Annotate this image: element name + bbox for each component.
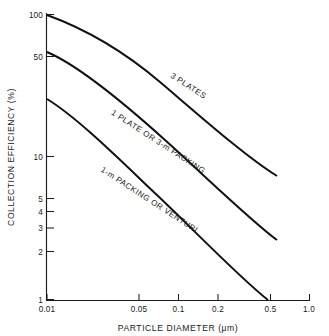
collection-efficiency-chart: 100 50 10 5 4 3 2 1 0.01 0.05 0.1 0.2 0.…	[0, 0, 329, 336]
x-tick-label-0.01: 0.01	[39, 305, 56, 314]
y-tick-label-3: 3	[38, 224, 43, 233]
y-axis-tick-labels: 100 50 10 5 4 3 2 1	[29, 11, 43, 305]
y-tick-label-4: 4	[38, 208, 43, 217]
series-line-3-plates	[47, 15, 277, 176]
y-tick-label-10: 10	[34, 153, 44, 162]
x-axis-tick-labels: 0.01 0.05 0.1 0.2 0.5 1.0	[39, 305, 315, 314]
y-tick-label-1: 1	[38, 296, 43, 305]
x-tick-label-1.0: 1.0	[303, 305, 315, 314]
series-label-1m-packing-or-venturi: 1-m PACKING OR VENTURI	[99, 165, 199, 235]
y-tick-label-5: 5	[38, 195, 43, 204]
series-label-3-plates: 3 PLATES	[169, 71, 208, 101]
x-axis-ticks	[47, 294, 310, 301]
y-tick-label-50: 50	[34, 53, 44, 62]
y-axis-ticks	[47, 15, 55, 300]
x-tick-label-0.05: 0.05	[131, 305, 148, 314]
x-tick-label-0.1: 0.1	[173, 305, 185, 314]
y-tick-label-2: 2	[38, 248, 43, 257]
x-tick-label-0.5: 0.5	[265, 305, 277, 314]
x-axis-title: PARTICLE DIAMETER (μm)	[118, 323, 238, 333]
series-inline-labels: 3 PLATES 1 PLATE OR 3-m PACKING 1-m PACK…	[99, 71, 208, 235]
y-axis-title: COLLECTION EFFICIENCY (%)	[6, 88, 16, 226]
chart-series	[47, 15, 277, 300]
y-tick-label-100: 100	[29, 11, 43, 20]
series-label-1-plate-or-3m-packing: 1 PLATE OR 3-m PACKING	[110, 108, 207, 176]
x-tick-label-0.2: 0.2	[212, 305, 224, 314]
chart-figure: 100 50 10 5 4 3 2 1 0.01 0.05 0.1 0.2 0.…	[0, 0, 329, 336]
